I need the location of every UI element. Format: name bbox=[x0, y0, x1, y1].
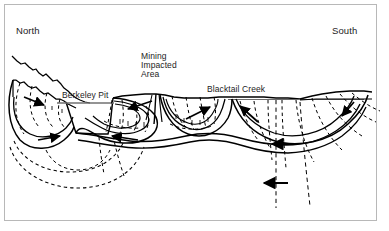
deep-flow-arc-2 bbox=[10, 147, 144, 188]
south-ground-surface bbox=[228, 97, 300, 99]
south-vertical-divide-2 bbox=[300, 102, 310, 206]
label-south: South bbox=[332, 26, 357, 36]
flow-path-c2 bbox=[186, 97, 194, 130]
flow-path-pit-descend-2 bbox=[99, 137, 104, 174]
flow-path-s4 bbox=[282, 100, 286, 168]
diagram-canvas: North South Berkeley Pit Mining Impacted… bbox=[0, 0, 389, 231]
flow-path-s6 bbox=[312, 98, 342, 150]
south-terrace-bench bbox=[300, 91, 372, 99]
label-mining-impacted-area-line3: Area bbox=[141, 70, 159, 79]
mining-area-ground-surface bbox=[113, 94, 228, 98]
label-blacktail-creek: Blacktail Creek bbox=[207, 85, 265, 95]
cross-section-drawing bbox=[0, 0, 389, 231]
flow-arrow-creek-cell bbox=[186, 107, 210, 119]
flow-arrow-north-upper bbox=[24, 97, 44, 105]
deep-flow-arc-1 bbox=[14, 141, 124, 172]
flow-path-n1 bbox=[30, 86, 40, 128]
label-north: North bbox=[16, 26, 40, 36]
mining-area-central-divide bbox=[154, 94, 156, 124]
label-berkeley-pit: Berkeley Pit bbox=[62, 91, 109, 101]
flow-arrow-south-cell bbox=[342, 102, 354, 116]
flow-path-n2 bbox=[45, 93, 54, 128]
